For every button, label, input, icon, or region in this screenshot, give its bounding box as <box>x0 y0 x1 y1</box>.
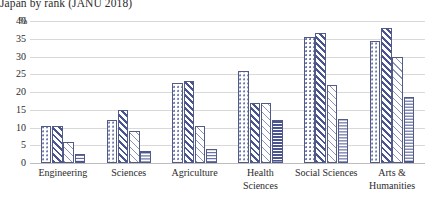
y-axis-unit-label: % <box>19 16 27 26</box>
bar <box>52 126 63 163</box>
bar <box>206 149 217 163</box>
bar <box>238 71 249 163</box>
x-axis-label-line: Humanities <box>351 179 425 192</box>
bar <box>129 131 140 163</box>
x-axis-label-line: Sciences <box>220 179 302 192</box>
x-axis-label-line: Arts & <box>351 166 425 179</box>
bar <box>338 119 349 163</box>
y-axis-tick-label: 10 <box>0 123 26 133</box>
bar-group <box>359 21 425 163</box>
bar <box>261 103 272 163</box>
bar <box>272 120 283 163</box>
y-axis-tick-label: 35 <box>0 34 26 44</box>
y-axis-tick-label: 30 <box>0 52 26 62</box>
bar <box>140 151 151 163</box>
bar <box>195 126 206 163</box>
y-axis-tick-label: 25 <box>0 69 26 79</box>
bar-group <box>162 21 228 163</box>
bar <box>327 85 338 163</box>
bar <box>381 28 392 163</box>
bar <box>404 97 415 163</box>
bar <box>315 33 326 163</box>
bar <box>304 37 315 163</box>
x-axis-labels: EngineeringSciencesAgricultureHealthScie… <box>30 166 425 216</box>
bar-group <box>293 21 359 163</box>
bar <box>63 142 74 163</box>
bar-group <box>30 21 96 163</box>
bar <box>75 154 86 163</box>
bar <box>250 103 261 163</box>
bar <box>107 120 118 163</box>
gridline-0 <box>30 163 425 164</box>
y-axis-tick-label: 15 <box>0 105 26 115</box>
chart-title: Japan by rank (JANU 2018) <box>0 0 425 10</box>
y-axis-tick-label: 5 <box>0 140 26 150</box>
bar-group <box>228 21 294 163</box>
bar-group <box>96 21 162 163</box>
bar <box>370 41 381 163</box>
x-axis-label: Arts &Humanities <box>351 166 425 192</box>
bar <box>118 110 129 163</box>
bar-chart: Japan by rank (JANU 2018) 05101520253035… <box>0 0 425 218</box>
bar <box>41 126 52 163</box>
y-axis: 0510152025303540 <box>0 21 26 163</box>
bar <box>184 81 195 163</box>
bar-groups <box>30 21 425 163</box>
bar <box>172 83 183 163</box>
bar <box>392 57 403 164</box>
y-axis-tick-label: 20 <box>0 87 26 97</box>
